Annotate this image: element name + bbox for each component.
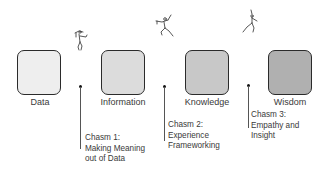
chasm-2-caption: Chasm 2: Experience Frameworking bbox=[168, 120, 220, 152]
dikw-diagram: Data Information Knowledge Wisdom Chasm … bbox=[0, 0, 331, 172]
striding-figure-icon bbox=[240, 8, 262, 36]
chasm-1-line3: out of Data bbox=[85, 154, 145, 165]
knowledge-box bbox=[185, 50, 229, 95]
jumping-figure-icon bbox=[70, 28, 92, 54]
chasm-3-line2: Empathy and bbox=[251, 121, 299, 132]
wisdom-label: Wisdom bbox=[250, 97, 330, 107]
information-label: Information bbox=[83, 97, 163, 107]
chasm-1-caption: Chasm 1: Making Meaning out of Data bbox=[85, 133, 145, 165]
knowledge-label: Knowledge bbox=[167, 97, 247, 107]
data-label: Data bbox=[0, 97, 80, 107]
chasm-3-caption: Chasm 3: Empathy and Insight bbox=[251, 110, 299, 142]
wisdom-box bbox=[268, 50, 312, 95]
leaping-figure-icon bbox=[152, 13, 180, 41]
chasm-2-title: Chasm 2: bbox=[168, 120, 220, 131]
chasm-2-line2: Experience bbox=[168, 131, 220, 142]
data-box bbox=[17, 50, 61, 95]
chasm-3-line3: Insight bbox=[251, 131, 299, 142]
chasm-2-line bbox=[164, 87, 165, 141]
chasm-1-line2: Making Meaning bbox=[85, 144, 145, 155]
chasm-1-line bbox=[80, 87, 81, 149]
chasm-3-title: Chasm 3: bbox=[251, 110, 299, 121]
chasm-1-title: Chasm 1: bbox=[85, 133, 145, 144]
chasm-3-line bbox=[248, 86, 249, 128]
chasm-2-line3: Frameworking bbox=[168, 141, 220, 152]
information-box bbox=[101, 50, 145, 95]
